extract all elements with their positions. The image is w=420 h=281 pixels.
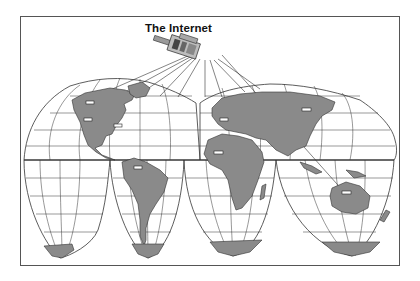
node-russia: [302, 108, 311, 111]
landmass-antarctica-2: [132, 244, 164, 258]
landmass-antarctica-3: [210, 240, 262, 256]
node-africa: [214, 151, 223, 154]
node-south-america: [134, 166, 142, 169]
lobe-south-pacific: [24, 160, 110, 258]
landmass-south-america: [122, 158, 168, 246]
satellite-icon: [152, 26, 202, 59]
land-masses: [44, 82, 390, 258]
landmass-north-america: [72, 88, 135, 160]
landmass-new-guinea: [346, 170, 366, 178]
landmass-australia: [330, 182, 370, 214]
node-australia: [342, 191, 351, 194]
landmass-africa: [204, 134, 264, 210]
node-canada: [86, 101, 94, 104]
node-usa-east: [114, 124, 122, 127]
landmass-madagascar: [260, 184, 266, 200]
world-map-diagram: [0, 0, 420, 281]
landmass-new-zealand: [380, 210, 390, 222]
node-usa-west: [84, 118, 92, 121]
node-europe: [220, 118, 228, 121]
landmass-antarctica-4: [322, 242, 380, 256]
landmass-antarctica-1: [44, 244, 74, 258]
